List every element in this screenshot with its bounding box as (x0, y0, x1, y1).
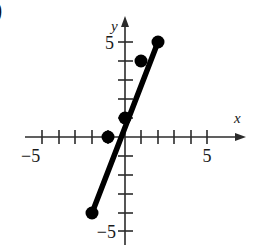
x-axis-label: x (233, 110, 241, 126)
y-tick-label-positive-five: 5 (105, 33, 114, 53)
corner-label: ) (0, 0, 2, 24)
data-point (152, 36, 165, 49)
data-point (102, 131, 115, 144)
graph-figure: ) (0, 0, 265, 250)
x-axis (25, 133, 246, 141)
y-tick-label-negative-five: −5 (97, 222, 116, 242)
y-axis-label: y (109, 18, 118, 34)
x-tick-label-positive-five: 5 (203, 146, 212, 166)
data-point (86, 207, 99, 220)
x-tick-label-negative-five: −5 (21, 146, 40, 166)
data-point (119, 112, 132, 125)
coordinate-plane: x y −5 5 5 −5 (0, 0, 265, 250)
data-point (135, 55, 148, 68)
